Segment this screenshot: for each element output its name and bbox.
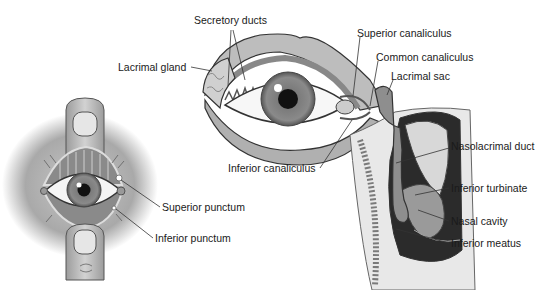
label-inferior-punctum: Inferior punctum xyxy=(155,232,231,244)
label-lacrimal-gland: Lacrimal gland xyxy=(118,61,186,73)
label-superior-punctum: Superior punctum xyxy=(162,201,245,213)
label-lacrimal-sac: Lacrimal sac xyxy=(391,70,450,82)
label-common-canaliculus: Common canaliculus xyxy=(376,51,473,63)
inferior-punctum-dot xyxy=(112,206,116,210)
lacrimal-gland xyxy=(203,58,235,108)
label-nasolacrimal-duct: Nasolacrimal duct xyxy=(451,140,534,152)
label-inferior-meatus: Inferior meatus xyxy=(451,237,521,249)
upper-fingernail xyxy=(73,112,97,136)
label-inferior-turbinate: Inferior turbinate xyxy=(451,182,527,194)
label-superior-canaliculus: Superior canaliculus xyxy=(357,27,452,39)
label-inferior-canaliculus: Inferior canaliculus xyxy=(228,162,316,174)
label-secretory-ducts: Secretory ducts xyxy=(194,14,267,26)
label-nasal-cavity: Nasal cavity xyxy=(451,215,508,227)
lateral-pupil xyxy=(278,89,298,109)
lower-fingernail xyxy=(74,230,96,254)
lacrimal-diagram: Secretory ducts Lacrimal gland Superior … xyxy=(0,0,555,290)
